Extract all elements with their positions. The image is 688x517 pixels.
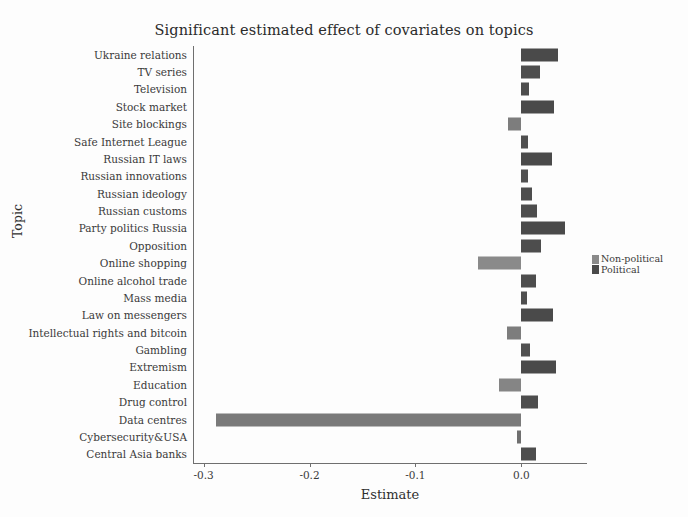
y-axis-tick-label: Russian innovations	[6, 170, 191, 182]
bar	[517, 430, 522, 443]
y-axis-tick-labels: Ukraine relationsTV seriesTelevisionStoc…	[0, 46, 191, 463]
y-axis-tick-label: Television	[6, 83, 191, 95]
chart-legend: Non-politicalPolitical	[592, 254, 663, 275]
bar	[521, 239, 541, 252]
y-axis-tick-label: Law on messengers	[6, 309, 191, 321]
bar	[521, 222, 564, 235]
y-axis-tick-label: Education	[6, 379, 191, 391]
bar	[521, 309, 553, 322]
bar	[521, 48, 558, 61]
bar	[521, 396, 537, 409]
y-axis-tick-label: Data centres	[6, 414, 191, 426]
legend-swatch	[592, 265, 599, 274]
y-axis-tick-label: Stock market	[6, 101, 191, 113]
bar	[521, 100, 554, 113]
bar	[521, 187, 532, 200]
x-axis-tick-mark	[310, 463, 311, 467]
y-axis-tick-label: Site blockings	[6, 118, 191, 130]
y-axis-tick-label: Extremism	[6, 361, 191, 373]
legend-label: Non-political	[601, 254, 663, 265]
bar	[521, 170, 527, 183]
bar	[499, 378, 521, 391]
bar	[521, 152, 551, 165]
bar	[521, 66, 540, 79]
y-axis-tick-label: TV series	[6, 66, 191, 78]
y-axis-tick-label: Opposition	[6, 240, 191, 252]
y-axis-tick-label: Online alcohol trade	[6, 275, 191, 287]
y-axis-tick-label: Gambling	[6, 344, 191, 356]
bar	[521, 361, 556, 374]
bar	[478, 257, 521, 270]
legend-label: Political	[601, 265, 640, 276]
legend-item: Political	[592, 265, 663, 276]
x-axis-title: Estimate	[193, 487, 587, 502]
bar	[521, 83, 529, 96]
x-axis-line	[193, 463, 587, 464]
legend-item: Non-political	[592, 254, 663, 265]
y-axis-tick-label: Russian ideology	[6, 188, 191, 200]
x-axis-tick-mark	[204, 463, 205, 467]
x-axis-tick-label: -0.1	[405, 469, 425, 481]
bar	[508, 118, 521, 131]
plot-area	[193, 46, 587, 463]
y-axis-tick-label: Central Asia banks	[6, 448, 191, 460]
bar	[521, 344, 530, 357]
chart-title: Significant estimated effect of covariat…	[0, 22, 688, 38]
bar	[521, 205, 537, 218]
y-axis-tick-label: Russian IT laws	[6, 153, 191, 165]
x-axis-tick-mark	[521, 463, 522, 467]
bar	[216, 413, 521, 426]
y-axis-tick-label: Cybersecurity&USA	[6, 431, 191, 443]
y-axis-tick-label: Safe Internet League	[6, 136, 191, 148]
x-axis-tick-mark	[415, 463, 416, 467]
y-axis-tick-label: Mass media	[6, 292, 191, 304]
y-axis-tick-label: Russian customs	[6, 205, 191, 217]
y-axis-tick-label: Party politics Russia	[6, 222, 191, 234]
chart-figure: Significant estimated effect of covariat…	[0, 0, 688, 517]
x-axis-tick-label: -0.2	[299, 469, 319, 481]
y-axis-tick-label: Intellectual rights and bitcoin	[6, 327, 191, 339]
x-axis-tick-label: -0.3	[193, 469, 213, 481]
bar	[507, 326, 522, 339]
y-axis-tick-label: Drug control	[6, 396, 191, 408]
legend-swatch	[592, 255, 599, 264]
bar	[521, 274, 536, 287]
bar	[521, 448, 535, 461]
bar	[521, 291, 527, 304]
bar	[521, 135, 527, 148]
y-axis-tick-label: Online shopping	[6, 257, 191, 269]
x-axis-tick-label: 0.0	[513, 469, 530, 481]
y-axis-tick-label: Ukraine relations	[6, 49, 191, 61]
